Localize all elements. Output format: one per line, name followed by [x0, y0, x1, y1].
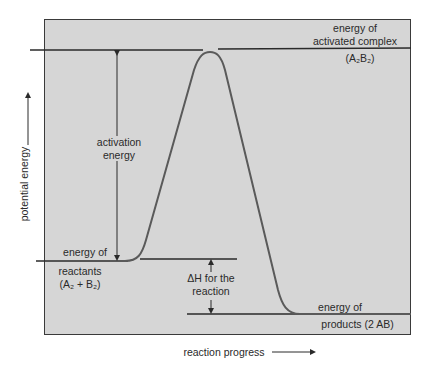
reactants-label-line: reactants [50, 265, 110, 278]
activated-complex-label-line2: activated complex [300, 35, 410, 48]
products-energy-label: energy of [300, 301, 380, 314]
delta-h-label: ΔH for the reaction [183, 272, 239, 297]
activated-complex-label: energy of activated complex [300, 22, 410, 47]
delta-h-label-line2: reaction [183, 285, 239, 298]
reactants-formula: (A₂ + B₂) [50, 278, 110, 291]
activated-complex-level-line-right [218, 48, 411, 49]
x-axis-label: reaction progress [183, 346, 265, 359]
products-label: products (2 AB) [310, 318, 405, 331]
y-axis-label-text: potential energy [18, 147, 30, 222]
y-axis-label: potential energy [14, 84, 34, 284]
delta-h-label-line1: ΔH for the [183, 272, 239, 285]
activation-energy-label: activation energy [84, 136, 154, 161]
activation-energy-label-line1: activation [84, 136, 154, 149]
activation-energy-label-line2: energy [84, 149, 154, 162]
activated-complex-label-line1: energy of [300, 22, 410, 35]
reaction-energy-curve [110, 52, 411, 314]
reactants-energy-label: energy of [55, 246, 115, 259]
activated-complex-formula: (A₂B₂) [320, 52, 400, 65]
reactants-label: reactants (A₂ + B₂) [50, 265, 110, 290]
